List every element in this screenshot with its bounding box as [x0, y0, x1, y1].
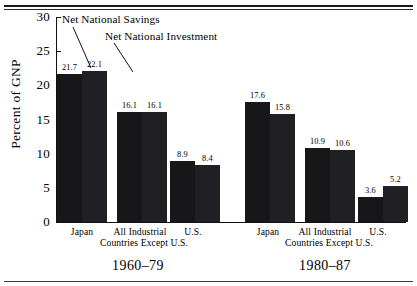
period-label-1980-87: 1980–87 — [265, 258, 385, 274]
chart-figure: 051015202530 Percent of GNP 21.722.116.1… — [0, 0, 417, 286]
annotation-net-national-investment: Net National Investment — [105, 30, 217, 42]
category-label-us-1960: U.S. — [168, 226, 218, 237]
category-label-line2: Countries Except U.S. — [285, 237, 365, 248]
annotation-net-national-savings: Net National Savings — [62, 13, 160, 25]
category-label-us-1980: U.S. — [353, 226, 403, 237]
category-label-line2: Countries Except U.S. — [100, 237, 180, 248]
category-label-text: U.S. — [168, 226, 218, 237]
category-label-text: U.S. — [353, 226, 403, 237]
period-label-1960-79: 1960–79 — [78, 258, 198, 274]
